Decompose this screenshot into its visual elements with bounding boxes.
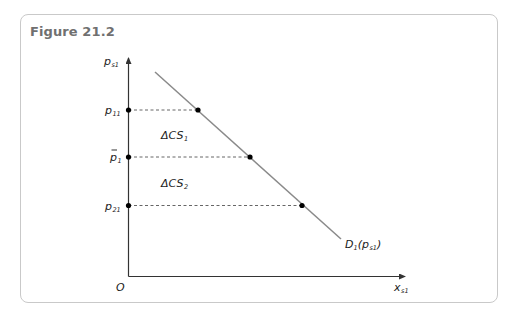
y-axis-dot-p11 — [126, 107, 131, 112]
price-label-pbar1: p1 — [109, 150, 122, 165]
area-label-delta-cs2: ΔCS2 — [160, 177, 188, 191]
demand-dot-pbar1 — [247, 154, 252, 159]
price-label-p11: p11 — [104, 104, 121, 118]
y-axis-label: ps1 — [103, 55, 119, 69]
demand-dot-p11 — [195, 107, 200, 112]
origin-label: O — [116, 281, 125, 294]
y-axis-dot-pbar1 — [126, 154, 131, 159]
svg-text:p1: p1 — [109, 151, 122, 165]
x-axis-label: xs1 — [393, 281, 409, 295]
y-axis-dot-p21 — [126, 203, 131, 208]
area-label-delta-cs1: ΔCS1 — [160, 129, 188, 143]
demand-dot-p21 — [299, 203, 304, 208]
price-label-p21: p21 — [104, 200, 121, 214]
demand-curve-label: D1(ps1) — [345, 238, 381, 252]
demand-diagram: ps1 p11 p1 p21 ΔCS1 ΔCS2 D1(ps1) O xs1 — [0, 0, 521, 322]
